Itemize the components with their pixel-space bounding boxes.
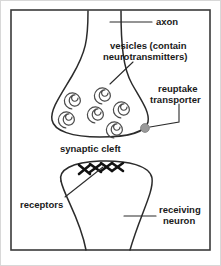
label-reuptake-line2: transporter [150,94,201,105]
label-receptors: receptors [20,199,63,210]
label-synaptic-cleft: synaptic cleft [60,143,122,154]
synapse-diagram-figure: axon vesicles (contain neurotransmitters… [0,0,221,266]
label-vesicles-line1: vesicles (contain [110,40,187,51]
label-vesicles-line2: neurotransmitters) [103,51,187,62]
synapse-diagram-canvas: axon vesicles (contain neurotransmitters… [0,0,221,266]
label-receiving-line2: neuron [163,215,195,226]
label-axon: axon [156,16,178,27]
reuptake-transporter-dot [141,124,150,133]
label-reuptake-line1: reuptake [158,83,198,94]
label-receiving-line1: receiving [159,204,201,215]
